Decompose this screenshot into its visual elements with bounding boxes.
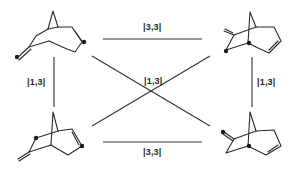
label-right-1-3: |1,3| [257, 77, 276, 87]
molecule-bottom-left [18, 112, 84, 161]
labeled-carbon-marker [224, 49, 228, 53]
labeled-carbon-marker [221, 130, 225, 134]
label-bottom-3-3: |3,3| [143, 147, 162, 157]
label-center-1-3: |1,3| [144, 76, 163, 86]
connector-lines [54, 39, 252, 142]
molecule-bottom-right [221, 112, 281, 155]
labeled-carbon-marker [247, 41, 251, 45]
label-top-3-3: |3,3| [143, 22, 162, 32]
labeled-carbon-marker [34, 136, 38, 140]
labeled-carbon-marker [80, 144, 84, 148]
label-left-1-3: |1,3| [27, 77, 46, 87]
labeled-carbon-marker [247, 144, 251, 148]
molecule-top-right [224, 12, 281, 53]
labeled-carbon-marker [15, 55, 19, 59]
labeled-carbon-marker [82, 40, 86, 44]
molecule-top-left [15, 11, 86, 60]
